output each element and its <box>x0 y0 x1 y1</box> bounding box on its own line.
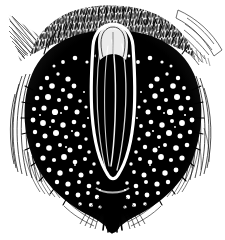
illustration-canvas: Stippled engraving of a cleft ovoid body <box>0 0 225 240</box>
engraving-illustration <box>0 0 225 240</box>
hood <box>98 24 128 60</box>
